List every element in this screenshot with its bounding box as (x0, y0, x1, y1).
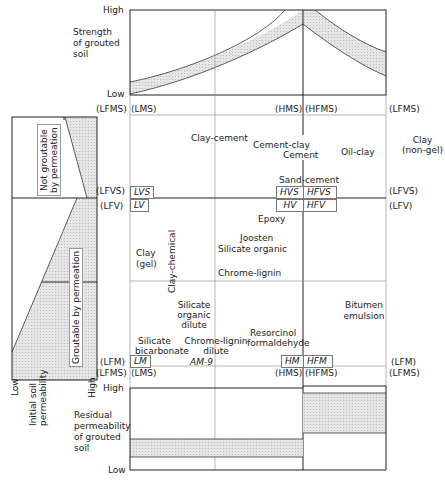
residual-low-label: Low (108, 465, 126, 475)
residual-title-line: Residual (74, 410, 131, 421)
strength-low-label: Low (107, 89, 125, 99)
label-lfvs-right: (LFVS) (389, 186, 418, 196)
residual-title-line: permeability (74, 421, 131, 432)
residual-title-line: soil (74, 443, 131, 454)
strength-title-line: Strength (73, 27, 120, 38)
residual-axis-title: Residual permeability of grouted soil (74, 410, 131, 454)
box-hm: HM (281, 355, 304, 368)
grout-silicate-organic-dilute: Silicate organic dilute (174, 300, 214, 330)
label-lms-bottom: (LMS) (131, 368, 157, 378)
title-line: Initial soil (28, 369, 38, 426)
not-groutable-label: Not groutable by permeation (37, 124, 61, 196)
box-lv: LV (130, 199, 149, 212)
grout-clay-chemical: Clay-chemical (167, 230, 177, 293)
label-lfms-right-bottom: (LFMS) (389, 368, 420, 378)
label-lfm-left: (LFM) (100, 357, 125, 367)
region-line: Not groutable (39, 127, 49, 193)
grout-line: (non-gel) (400, 145, 445, 155)
region-line: by permeation (49, 127, 59, 193)
grout-joosten: Joosten (240, 233, 273, 243)
box-hfv: HFV (303, 199, 337, 212)
strength-chart (130, 10, 386, 95)
label-hms-bottom: (HMS) (275, 368, 302, 378)
grout-line: Bitumen (340, 300, 388, 311)
label-lfms-left: (LFMS) (96, 104, 127, 114)
diagram-graphics (0, 0, 445, 483)
grout-line: Clay (400, 135, 445, 145)
grout-oil-clay: Oil-clay (341, 147, 375, 157)
grout-cement-clay: Cement-clay (253, 140, 310, 150)
label-lfm-right: (LFM) (391, 357, 416, 367)
grout-line: dilute (174, 320, 214, 330)
grout-clay-cement: Clay-cement (191, 133, 248, 143)
label-lfvs-left: (LFVS) (96, 186, 125, 196)
grout-sand-cement: Sand-cement (279, 175, 339, 185)
strength-axis-title: Strength of grouted soil (73, 27, 120, 60)
initial-permeability-title: Initial soil permeability (28, 369, 48, 426)
residual-high-label: High (103, 383, 124, 393)
grout-line: Resorcinol (247, 328, 310, 338)
grout-clay-gel: Clay (gel) (136, 248, 157, 270)
permeability-high-label: High (87, 377, 97, 398)
grout-silicate-organic: Silicate organic (218, 244, 287, 254)
box-hfm: HFM (303, 355, 333, 368)
box-lm: LM (130, 355, 151, 368)
label-lms: (LMS) (131, 104, 157, 114)
strength-title-line: of grouted (73, 38, 120, 49)
box-lvs: LVS (130, 186, 154, 199)
permeability-low-label: Low (10, 378, 20, 396)
grout-line: emulsion (340, 311, 388, 322)
grout-line: Clay (136, 248, 157, 259)
grout-bitumen-emulsion: Bitumen emulsion (340, 300, 388, 322)
grout-cement: Cement (283, 150, 318, 160)
box-am9: AM-9 (190, 357, 213, 367)
box-hfvs: HFVS (303, 186, 337, 199)
grout-line: dilute (180, 346, 252, 356)
grout-resorcinol-formaldehyde: Resorcinol formaldehyde (247, 328, 310, 348)
grout-line: organic (174, 310, 214, 320)
grout-chrome-lignin: Chrome-lignin (218, 268, 281, 278)
grout-line: (gel) (136, 259, 157, 270)
grout-line: formaldehyde (247, 338, 310, 348)
label-hfms: (HFMS) (305, 104, 337, 114)
box-hv: HV (276, 199, 304, 212)
title-line: permeability (38, 369, 48, 426)
strength-high-label: High (103, 5, 124, 15)
label-hms: (HMS) (275, 104, 302, 114)
label-lfms-left-bottom: (LFMS) (96, 368, 127, 378)
residual-title-line: of grouted (74, 432, 131, 443)
grout-epoxy: Epoxy (258, 214, 285, 224)
grout-clay-non-gel: Clay (non-gel) (400, 135, 445, 155)
grout-line: Chrome-lignin (180, 336, 252, 346)
residual-permeability-chart (130, 386, 386, 470)
grout-chrome-lignin-dilute: Chrome-lignin dilute (180, 336, 252, 356)
grout-line: Silicate (174, 300, 214, 310)
box-hvs: HVS (276, 186, 304, 199)
groutable-label: Groutable by permeation (69, 248, 83, 367)
label-lfv-right: (LFV) (389, 201, 412, 211)
label-hfms-bottom: (HFMS) (305, 368, 337, 378)
label-lfms-right: (LFMS) (389, 104, 420, 114)
label-lfv-left: (LFV) (100, 201, 123, 211)
strength-title-line: soil (73, 49, 120, 60)
